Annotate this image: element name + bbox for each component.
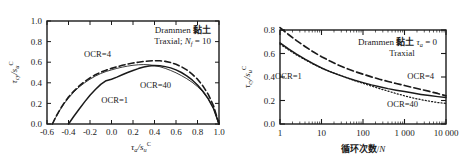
y-tick-label: 0.6	[264, 49, 276, 59]
annotation-line-1: Drammen 黏土 τa = 0	[358, 36, 437, 48]
right-plot-group: 1101001 00010 0000.00.20.40.60.8OCR=1OCR…	[240, 25, 459, 154]
x-tick-label: 0.8	[192, 127, 204, 137]
y-tick-label: 0.8	[31, 37, 43, 47]
x-axis-title: τa/suC	[131, 140, 151, 153]
x-tick-label: 10 000	[434, 128, 459, 138]
y-tick-label: 0.8	[264, 25, 276, 35]
y-tick-label: 0.4	[264, 72, 276, 82]
y-axis-title: τcy/suC	[7, 61, 20, 83]
x-axis-title: 循环次数/N	[341, 143, 387, 154]
y-tick-label: 0.0	[264, 119, 276, 129]
curve-label-ocr40: OCR=40	[387, 99, 418, 109]
chart-left-svg: -0.6-0.4-0.20.00.20.40.60.81.00.00.20.40…	[0, 0, 234, 163]
curve-label-ocr4: OCR=4	[407, 71, 435, 81]
x-tick-label: 100	[356, 128, 370, 138]
annotation-line-2: Traxial	[389, 48, 415, 58]
x-tick-label: 0.4	[149, 127, 161, 137]
left-plot-group: -0.6-0.4-0.20.00.20.40.60.81.00.00.20.40…	[7, 16, 225, 153]
curve-label-ocr1: OCR=1	[101, 95, 128, 105]
x-tick-label: 0.2	[127, 127, 138, 137]
chart-panel-right: 1101001 00010 0000.00.20.40.60.8OCR=1OCR…	[234, 0, 467, 163]
y-tick-label: 0.2	[264, 96, 275, 106]
x-tick-label: 1 000	[394, 128, 415, 138]
annotation-line-1: Drammen 黏土	[155, 24, 211, 35]
y-axis-title: τcy/suC	[240, 66, 253, 88]
y-tick-label: 0.6	[31, 57, 43, 67]
annotation-line-2: Traxial; Nf = 10	[154, 36, 211, 47]
figure-container: -0.6-0.4-0.20.00.20.40.60.81.00.00.20.40…	[0, 0, 467, 163]
curve-label-ocr4: OCR=4	[84, 49, 112, 59]
x-tick-label: -0.6	[40, 127, 55, 137]
x-tick-label: 0.6	[170, 127, 182, 137]
curve-label-ocr1: OCR=1	[275, 71, 302, 81]
x-tick-label: 1	[278, 128, 283, 138]
chart-panel-left: -0.6-0.4-0.20.00.20.40.60.81.00.00.20.40…	[0, 0, 234, 163]
y-tick-label: 1.0	[31, 16, 43, 26]
x-tick-label: 0.0	[106, 127, 118, 137]
x-tick-label: -0.2	[83, 127, 97, 137]
y-tick-label: 0.4	[31, 78, 43, 88]
curve-label-ocr40: OCR=40	[140, 80, 171, 90]
x-tick-label: 10	[317, 128, 327, 138]
chart-right-svg: 1101001 00010 0000.00.20.40.60.8OCR=1OCR…	[234, 0, 467, 163]
x-tick-label: -0.4	[61, 127, 76, 137]
y-tick-label: 0.0	[31, 119, 43, 129]
x-tick-label: 1.0	[213, 127, 225, 137]
y-tick-label: 0.2	[31, 99, 42, 109]
